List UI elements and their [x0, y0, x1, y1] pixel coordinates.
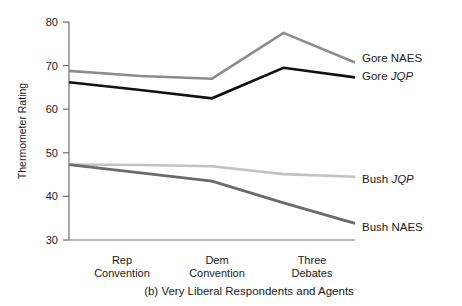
series-line-bush-naes: [69, 165, 355, 224]
x-tick-label-rep-line1: Rep: [112, 254, 132, 266]
legend-label-bush-naes: Bush NAES: [362, 221, 423, 233]
legend-text-gore-naes: Gore NAES: [362, 52, 422, 64]
legend-label-gore-jqp: Gore JQP: [362, 70, 413, 82]
legend-text-bush-naes: Bush NAES: [362, 221, 423, 233]
legend-label-gore-naes: Gore NAES: [362, 52, 422, 64]
x-tick-label-debates-line2: Debates: [292, 267, 333, 279]
line-chart-svg: 80 70 60 50 40 30 Thermometer Rating Rep…: [0, 0, 462, 306]
x-tick-label-dem-line1: Dem: [205, 254, 228, 266]
legend-text-bush-jqp-italic: JQP: [390, 173, 414, 185]
y-axis-title: Thermometer Rating: [16, 83, 28, 179]
x-tick-label-dem-line2: Convention: [189, 267, 245, 279]
y-tick-label-50: 50: [46, 147, 58, 159]
legend-text-bush-jqp-plain: Bush: [362, 173, 391, 185]
x-tick-label-rep-line2: Convention: [94, 267, 150, 279]
chart-figure: 80 70 60 50 40 30 Thermometer Rating Rep…: [0, 0, 462, 306]
y-tick-label-60: 60: [46, 103, 58, 115]
series-line-gore-jqp: [69, 68, 355, 99]
y-tick-label-80: 80: [46, 16, 58, 28]
legend-text-gore-jqp-italic: JQP: [390, 70, 414, 82]
figure-caption: (b) Very Liberal Respondents and Agents: [144, 285, 354, 297]
legend-label-bush-jqp: Bush JQP: [362, 173, 414, 185]
y-tick-label-40: 40: [46, 190, 58, 202]
y-tick-label-70: 70: [46, 60, 58, 72]
y-tick-label-30: 30: [46, 234, 58, 246]
x-tick-label-debates-line1: Three: [298, 254, 327, 266]
legend-text-gore-jqp-plain: Gore: [362, 70, 391, 82]
